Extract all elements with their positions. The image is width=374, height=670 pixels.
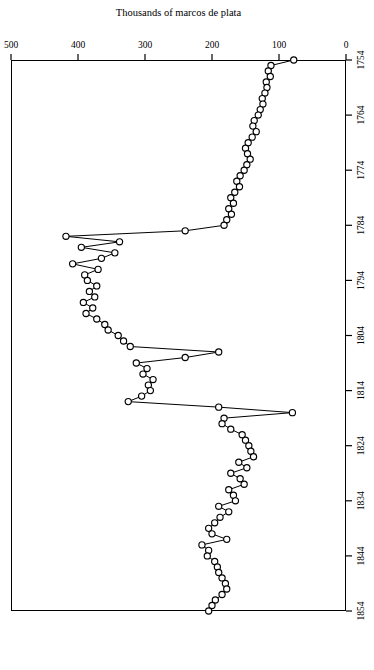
data-point-marker: [219, 591, 225, 597]
chart-svg-layer: 0100200300400500175417641774178417941804…: [0, 0, 374, 670]
data-point-marker: [70, 261, 76, 267]
data-point-marker: [147, 388, 153, 394]
value-axis-tick-label: 200: [205, 40, 220, 50]
data-point-marker: [241, 167, 247, 173]
data-point-marker: [120, 338, 126, 344]
data-series-line: [66, 60, 294, 611]
data-point-marker: [139, 393, 145, 399]
data-point-marker: [216, 349, 222, 355]
data-point-marker: [236, 184, 242, 190]
data-point-marker: [199, 542, 205, 548]
data-point-marker: [228, 426, 234, 432]
data-point-marker: [78, 244, 84, 250]
data-point-marker: [112, 250, 118, 256]
data-point-marker: [226, 487, 232, 493]
value-axis-title: Thousands of marcos de plata: [116, 7, 242, 18]
year-axis-tick-label: 1804: [356, 326, 366, 345]
data-point-marker: [249, 134, 255, 140]
data-point-marker: [237, 476, 243, 482]
data-point-marker: [230, 200, 236, 206]
series-polyline: [66, 60, 294, 611]
data-point-marker: [92, 294, 98, 300]
data-point-marker: [206, 608, 212, 614]
year-axis-tick-label: 1784: [356, 216, 366, 235]
data-point-marker: [94, 283, 100, 289]
data-point-marker: [133, 360, 139, 366]
year-axis-tick-label: 1764: [356, 105, 366, 124]
data-point-marker: [226, 509, 232, 515]
data-point-marker: [232, 498, 238, 504]
data-point-marker: [212, 520, 218, 526]
data-point-marker: [216, 503, 222, 509]
axis-tick-labels: 0100200300400500175417641774178417941804…: [4, 40, 366, 621]
value-axis-tick-label: 300: [138, 40, 153, 50]
data-point-marker: [291, 57, 297, 63]
data-point-marker: [228, 211, 234, 217]
data-point-marker: [236, 459, 242, 465]
data-point-marker: [63, 233, 69, 239]
chart-figure: 0100200300400500175417641774178417941804…: [0, 0, 374, 670]
data-point-marker: [125, 399, 131, 405]
data-point-marker: [219, 421, 225, 427]
data-point-marker: [224, 586, 230, 592]
value-axis-tick-label: 100: [272, 40, 287, 50]
rotated-chart-canvas: 0100200300400500175417641774178417941804…: [0, 0, 374, 670]
year-axis-tick-label: 1854: [356, 601, 366, 620]
data-point-marker: [289, 410, 295, 416]
data-point-marker: [95, 266, 101, 272]
year-axis-tick-label: 1834: [356, 491, 366, 510]
data-point-marker: [217, 514, 223, 520]
data-point-marker: [83, 310, 89, 316]
data-point-marker: [253, 129, 259, 135]
data-point-marker: [115, 332, 121, 338]
year-axis-tick-label: 1824: [356, 436, 366, 455]
data-point-marker: [84, 277, 90, 283]
data-point-marker: [182, 354, 188, 360]
data-point-markers: [63, 57, 297, 614]
data-point-marker: [221, 222, 227, 228]
data-point-marker: [228, 470, 234, 476]
data-point-marker: [209, 531, 215, 537]
data-point-marker: [86, 288, 92, 294]
value-axis-tick-label: 0: [344, 40, 349, 50]
data-point-marker: [250, 454, 256, 460]
year-axis-tick-label: 1774: [356, 160, 366, 179]
data-point-marker: [241, 481, 247, 487]
year-axis-tick-label: 1844: [356, 546, 366, 565]
data-point-marker: [94, 316, 100, 322]
value-axis-tick-label: 500: [4, 40, 19, 50]
value-axis-tick-label: 400: [71, 40, 86, 50]
data-point-marker: [224, 536, 230, 542]
data-point-marker: [116, 239, 122, 245]
tick-marks: [11, 54, 352, 611]
year-axis-tick-label: 1754: [356, 50, 366, 69]
data-point-marker: [182, 228, 188, 234]
data-point-marker: [98, 255, 104, 261]
data-point-marker: [150, 376, 156, 382]
year-axis-tick-label: 1794: [356, 271, 366, 290]
data-point-marker: [267, 73, 273, 79]
data-point-marker: [204, 553, 210, 559]
year-axis-tick-label: 1814: [356, 381, 366, 400]
data-point-marker: [90, 305, 96, 311]
data-point-marker: [244, 465, 250, 471]
data-point-marker: [255, 112, 261, 118]
data-point-marker: [105, 327, 111, 333]
data-point-marker: [140, 371, 146, 377]
data-point-marker: [216, 404, 222, 410]
data-point-marker: [144, 365, 150, 371]
data-point-marker: [127, 343, 133, 349]
axis-titles: Thousands of marcos de plata: [116, 7, 242, 18]
data-point-marker: [80, 299, 86, 305]
data-point-marker: [232, 189, 238, 195]
